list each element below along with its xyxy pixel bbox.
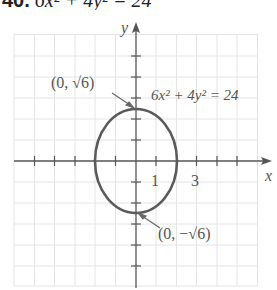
x-axis-label: x bbox=[265, 168, 272, 184]
y-axis-label: y bbox=[121, 20, 128, 36]
point-label-top: (0, √6) bbox=[51, 75, 94, 91]
curve-equation-label: 6x² + 4y² = 24 bbox=[151, 88, 239, 103]
tick-label-1: 1 bbox=[151, 173, 159, 189]
ellipse-graph bbox=[0, 0, 277, 290]
point-label-bottom: (0, −√6) bbox=[158, 226, 210, 242]
tick-label-3: 3 bbox=[191, 173, 199, 189]
